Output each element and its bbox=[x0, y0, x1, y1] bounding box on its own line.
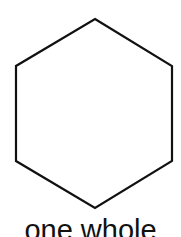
hexagon-shape bbox=[0, 0, 181, 237]
caption-label: one whole bbox=[0, 216, 181, 237]
hexagon-outline bbox=[16, 19, 172, 208]
